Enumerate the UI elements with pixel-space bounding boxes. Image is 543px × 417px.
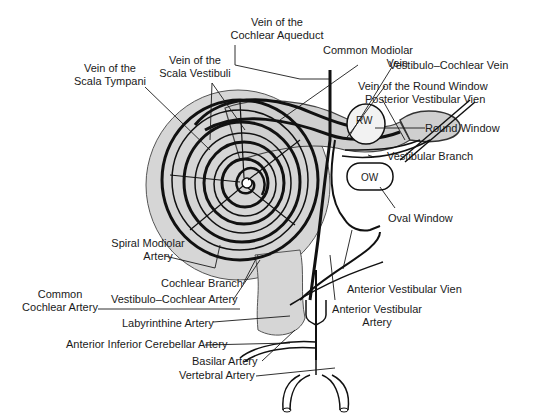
- label-vein-cochlear-aqueduct: Vein of the Cochlear Aqueduct: [217, 16, 337, 42]
- label-anterior-inferior-cerebellar-artery: Anterior Inferior Cerebellar Artery: [66, 338, 227, 351]
- round-window: RW: [347, 104, 385, 144]
- label-common-cochlear-artery: Common Cochlear Artery: [20, 288, 100, 314]
- ow-abbrev: OW: [361, 172, 379, 183]
- label-vein-scala-tympani: Vein of the Scala Tympani: [70, 62, 150, 88]
- label-cochlear-branch: Cochlear Branch: [161, 277, 243, 290]
- label-vein-scala-vestibuli: Vein of the Scala Vestibuli: [155, 54, 235, 80]
- label-vertebral-artery: Vertebral Artery: [179, 369, 255, 382]
- label-oval-window: Oval Window: [388, 212, 453, 225]
- label-vein-round-window: Vein of the Round Window: [358, 80, 488, 93]
- label-anterior-vestibular-artery: Anterior Vestibular Artery: [322, 303, 432, 329]
- label-labyrinthine-artery: Labyrinthine Artery: [122, 317, 214, 330]
- label-round-window: Round Window: [425, 122, 500, 135]
- label-spiral-modiolar-artery: Spiral Modiolar Artery: [108, 237, 188, 263]
- label-vestibular-branch: Vestibular Branch: [387, 150, 473, 163]
- label-anterior-vestibular-vien: Anterior Vestibular Vien: [347, 283, 462, 296]
- label-vestibulo-cochlear-vein: Vestibulo–Cochlear Vein: [389, 59, 508, 72]
- label-basilar-artery: Basilar Artery: [192, 355, 257, 368]
- label-posterior-vestibular-vien: Posterior Vestibular Vien: [365, 93, 485, 106]
- label-vestibulo-cochlear-artery: Vestibulo–Cochlear Artery: [111, 293, 238, 306]
- oval-window: OW: [347, 163, 393, 190]
